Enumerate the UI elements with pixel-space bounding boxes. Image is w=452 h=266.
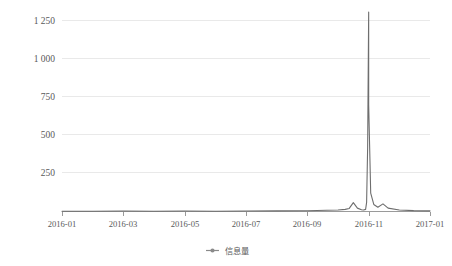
gridlines	[62, 21, 430, 173]
series-group	[62, 12, 430, 211]
x-axis	[62, 212, 431, 216]
line-chart: 1 250 1 000 750 500 250 2016-01 2016-03 …	[0, 0, 452, 266]
legend-label-xinxiliang: 信息量	[225, 246, 249, 256]
ytick-label-1250: 1 250	[34, 16, 56, 26]
xtick-label-2016-01: 2016-01	[48, 219, 77, 229]
xtick-label-2017-01: 2017-01	[416, 219, 445, 229]
y-axis-tick-labels: 1 250 1 000 750 500 250	[34, 16, 56, 178]
legend-marker-dot	[210, 248, 214, 252]
ytick-label-1000: 1 000	[34, 54, 56, 64]
x-axis-tick-labels: 2016-01 2016-03 2016-05 2016-07 2016-09 …	[48, 219, 445, 229]
xtick-label-2016-09: 2016-09	[293, 219, 322, 229]
xtick-label-2016-03: 2016-03	[109, 219, 138, 229]
series-line-xinxiliang	[62, 12, 430, 211]
chart-canvas: 1 250 1 000 750 500 250 2016-01 2016-03 …	[0, 0, 452, 266]
xtick-label-2016-11: 2016-11	[355, 219, 383, 229]
ytick-label-250: 250	[41, 168, 56, 178]
xtick-label-2016-05: 2016-05	[171, 219, 200, 229]
ytick-label-750: 750	[41, 92, 56, 102]
ytick-label-500: 500	[41, 130, 56, 140]
xtick-label-2016-07: 2016-07	[232, 219, 261, 229]
legend: 信息量	[206, 246, 249, 256]
